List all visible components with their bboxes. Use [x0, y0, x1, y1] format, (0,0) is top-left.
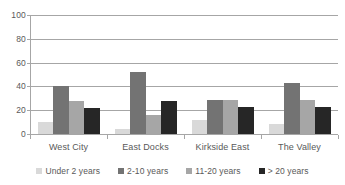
x-tick-mark-2 — [184, 135, 185, 139]
bar-east-docks-series-2[interactable] — [130, 72, 146, 134]
bar-kirkside-east-series-3[interactable] — [223, 100, 239, 134]
x-tick-mark-3 — [261, 135, 262, 139]
bar-the-valley-series-4[interactable] — [315, 107, 331, 134]
bar-kirkside-east-series-4[interactable] — [238, 107, 254, 134]
y-tick-mark-60 — [27, 63, 31, 64]
legend-item-4[interactable]: > 20 years — [259, 167, 309, 176]
bar-west-city-series-1[interactable] — [38, 122, 54, 134]
bars-layer — [30, 15, 338, 134]
legend-swatch-icon-1 — [36, 168, 42, 174]
chart-legend: Under 2 years2-10 years11-20 years> 20 y… — [0, 164, 345, 178]
y-tick-mark-100 — [27, 15, 31, 16]
x-category-label-the-valley: The Valley — [261, 142, 338, 153]
bar-group-the-valley — [269, 15, 331, 134]
x-category-label-west-city: West City — [30, 142, 107, 153]
legend-label-3: 11-20 years — [195, 167, 240, 176]
bar-east-docks-series-3[interactable] — [146, 115, 162, 134]
legend-label-2: 2-10 years — [127, 167, 168, 176]
y-tick-label-80: 80 — [2, 35, 26, 44]
legend-swatch-icon-4 — [259, 168, 265, 174]
y-tick-label-40: 40 — [2, 82, 26, 91]
bar-chart: 020406080100 Under 2 years2-10 years11-2… — [0, 0, 345, 185]
y-tick-label-0: 0 — [2, 130, 26, 139]
y-tick-label-60: 60 — [2, 59, 26, 68]
bar-east-docks-series-4[interactable] — [161, 101, 177, 134]
legend-label-4: > 20 years — [268, 167, 309, 176]
x-category-label-kirkside-east: Kirkside East — [184, 142, 261, 153]
bar-the-valley-series-2[interactable] — [284, 83, 300, 134]
y-tick-label-20: 20 — [2, 106, 26, 115]
legend-label-1: Under 2 years — [45, 167, 100, 176]
bar-the-valley-series-3[interactable] — [300, 100, 316, 135]
bar-group-west-city — [38, 15, 100, 134]
bar-east-docks-series-1[interactable] — [115, 129, 131, 134]
legend-item-3[interactable]: 11-20 years — [186, 167, 240, 176]
legend-swatch-icon-3 — [186, 168, 192, 174]
bar-the-valley-series-1[interactable] — [269, 124, 285, 134]
bar-west-city-series-4[interactable] — [84, 108, 100, 134]
x-tick-mark-0 — [30, 135, 31, 139]
bar-group-kirkside-east — [192, 15, 254, 134]
x-tick-mark-4 — [338, 135, 339, 139]
y-tick-mark-40 — [27, 86, 31, 87]
x-category-label-east-docks: East Docks — [107, 142, 184, 153]
y-axis: 020406080100 — [0, 0, 26, 185]
bar-group-east-docks — [115, 15, 177, 134]
bar-kirkside-east-series-1[interactable] — [192, 120, 208, 134]
bar-kirkside-east-series-2[interactable] — [207, 100, 223, 134]
y-tick-mark-80 — [27, 39, 31, 40]
x-tick-mark-1 — [107, 135, 108, 139]
bar-west-city-series-3[interactable] — [69, 101, 85, 134]
legend-swatch-icon-2 — [118, 168, 124, 174]
y-tick-mark-20 — [27, 110, 31, 111]
y-tick-label-100: 100 — [2, 11, 26, 20]
legend-item-1[interactable]: Under 2 years — [36, 167, 100, 176]
legend-item-2[interactable]: 2-10 years — [118, 167, 168, 176]
bar-west-city-series-2[interactable] — [53, 86, 69, 134]
